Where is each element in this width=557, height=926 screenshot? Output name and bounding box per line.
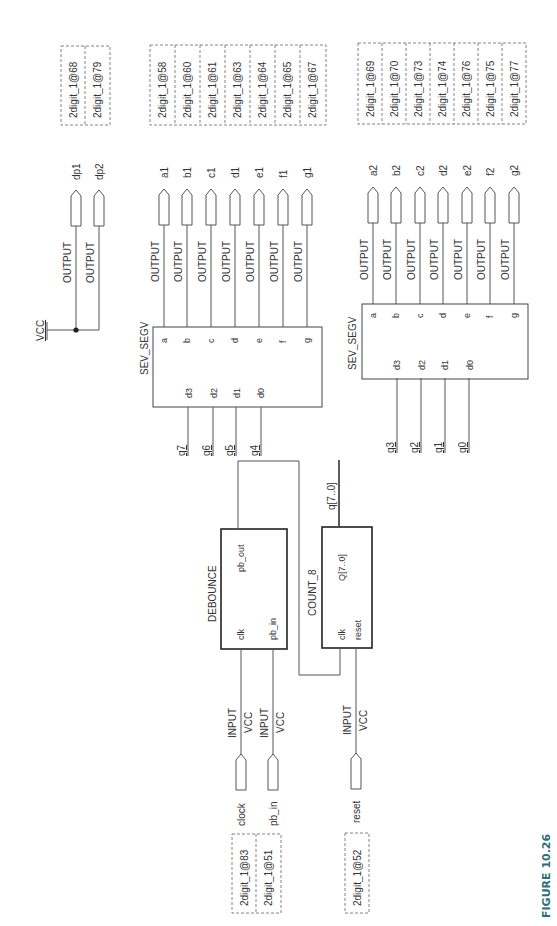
output-pin-c1: c1 OUTPUT [197, 167, 217, 327]
svg-text:OUTPUT: OUTPUT [173, 241, 184, 282]
pin-assignment-reset: 2digit_1@52 [352, 849, 363, 906]
output-pin-c2: c2 OUTPUT [406, 165, 426, 304]
output-pin-dp1-type: OUTPUT [62, 242, 73, 283]
pin-assignment-a2: 2digit_1@69 [365, 60, 376, 117]
output-pin-g1: g1 OUTPUT [293, 166, 313, 327]
output-pin-b2: b2 OUTPUT [382, 164, 402, 304]
svg-text:OUTPUT: OUTPUT [293, 241, 304, 282]
output-pin-d1: d1 OUTPUT [221, 166, 241, 327]
pin-assignment-group-digit1: 2digit_1@58 2digit_1@60 2digit_1@61 2dig… [150, 45, 326, 125]
svg-text:b2: b2 [391, 164, 402, 176]
svg-text:INPUT: INPUT [342, 705, 353, 735]
svg-text:f1: f1 [278, 169, 289, 178]
svg-text:clk: clk [236, 629, 246, 640]
svg-text:d1: d1 [440, 360, 450, 370]
pin-assignment-e2: 2digit_1@76 [461, 60, 472, 117]
svg-text:d2: d2 [438, 164, 449, 176]
svg-text:b: b [391, 313, 401, 318]
input-pin-pb-in[interactable]: INPUT VCC pb_in [259, 649, 286, 826]
svg-text:g: g [509, 313, 519, 318]
svg-text:d2: d2 [209, 388, 219, 398]
pin-assignment-f1: 2digit_1@65 [282, 61, 293, 118]
svg-text:OUTPUT: OUTPUT [269, 241, 280, 282]
svg-text:OUTPUT: OUTPUT [453, 239, 464, 280]
pin-assignment-e1: 2digit_1@64 [257, 61, 268, 118]
input-name: reset [351, 801, 362, 823]
svg-text:a2: a2 [368, 164, 379, 176]
net-q2: q2 [409, 441, 420, 453]
svg-text:OUTPUT: OUTPUT [150, 241, 161, 282]
svg-text:OUTPUT: OUTPUT [476, 239, 487, 280]
input-name: pb_in [268, 802, 279, 826]
pin-assignment-b1: 2digit_1@60 [182, 61, 193, 118]
pin-assignment-dp1: 2digit_1@68 [68, 61, 79, 118]
svg-text:f2: f2 [485, 167, 496, 176]
input-pin-reset[interactable]: INPUT VCC reset [342, 648, 369, 823]
svg-text:c: c [206, 338, 216, 343]
svg-text:d0: d0 [465, 360, 475, 370]
input-name: clock [236, 802, 247, 826]
svg-text:g1: g1 [302, 166, 313, 178]
vcc-label: VCC [35, 320, 46, 341]
svg-text:clk: clk [337, 629, 347, 640]
output-pins-digit1: a1 OUTPUT b1 OUTPUT c1 OUTPUT d1 OUTPUT … [150, 166, 313, 327]
svg-text:INPUT: INPUT [259, 708, 270, 738]
svg-text:OUTPUT: OUTPUT [429, 239, 440, 280]
svg-text:OUTPUT: OUTPUT [359, 239, 370, 280]
output-pin-dp2-type: OUTPUT [85, 242, 96, 283]
net-q3: q3 [385, 441, 396, 453]
pin-assignment-clock: 2digit_1@83 [239, 849, 250, 906]
svg-text:a1: a1 [159, 166, 170, 178]
svg-text:OUTPUT: OUTPUT [245, 241, 256, 282]
svg-text:OUTPUT: OUTPUT [406, 239, 417, 280]
svg-text:g: g [302, 338, 312, 343]
svg-text:e1: e1 [254, 166, 265, 178]
svg-text:pb_in: pb_in [268, 618, 278, 640]
debounce-block[interactable]: DEBOUNCE clk pb_in pb_out [207, 529, 287, 649]
output-pins-digit2: a2 OUTPUT b2 OUTPUT c2 OUTPUT d2 OUTPUT … [359, 164, 520, 304]
sev-segv-block-2[interactable]: SEV_SEGV a b c d e f g d3 d2 d1 d0 q3 q2… [347, 304, 528, 453]
svg-text:d3: d3 [392, 360, 402, 370]
svg-text:b1: b1 [182, 166, 193, 178]
svg-text:d1: d1 [230, 166, 241, 178]
svg-text:pb_out: pb_out [236, 544, 246, 572]
pin-assignment-f2: 2digit_1@75 [485, 60, 496, 117]
svg-text:OUTPUT: OUTPUT [382, 239, 393, 280]
pin-assignment-b2: 2digit_1@70 [389, 60, 400, 117]
output-pin-dp1-icon [71, 190, 81, 226]
output-pins-dp: dp1 OUTPUT dp2 OUTPUT VCC [35, 163, 105, 341]
svg-text:e2: e2 [462, 164, 473, 176]
pin-assignment-d2: 2digit_1@74 [437, 60, 448, 117]
output-pin-dp2-name: dp2 [94, 163, 105, 180]
svg-text:OUTPUT: OUTPUT [197, 241, 208, 282]
svg-text:d0: d0 [256, 388, 266, 398]
output-pin-f1: f1 OUTPUT [269, 169, 289, 327]
svg-text:a: a [368, 313, 378, 318]
output-pin-dp1-name: dp1 [71, 163, 82, 180]
net-q7: q7 [176, 444, 187, 456]
pin-assignment-c2: 2digit_1@73 [413, 60, 424, 117]
svg-text:d: d [438, 313, 448, 318]
output-pin-b1: b1 OUTPUT [173, 166, 193, 327]
output-pin-d2: d2 OUTPUT [429, 164, 449, 304]
svg-text:reset: reset [353, 619, 363, 640]
svg-text:g2: g2 [509, 164, 520, 176]
pin-assignment-g1: 2digit_1@67 [307, 61, 318, 118]
svg-text:c1: c1 [206, 167, 217, 178]
block-name: COUNT_8 [307, 569, 318, 616]
sev-segv-block-1[interactable]: SEV_SEGV a b c d e f g d3 d2 d1 d0 q7 q6… [139, 321, 322, 456]
count8-block[interactable]: COUNT_8 clk reset Q[7..0] q[7..0] [307, 460, 372, 648]
svg-text:VCC: VCC [358, 710, 369, 731]
pin-assignment-d1: 2digit_1@63 [232, 61, 243, 118]
output-pin-e2: e2 OUTPUT [453, 164, 473, 304]
svg-text:d1: d1 [232, 388, 242, 398]
svg-text:a: a [159, 338, 169, 343]
svg-text:e: e [254, 338, 264, 343]
input-pin-clock[interactable]: INPUT VCC clock [227, 649, 254, 826]
figure-label: FIGURE 10.26 [540, 833, 553, 918]
net-q1: q1 [433, 441, 444, 453]
svg-text:VCC: VCC [275, 712, 286, 733]
net-q-bus: q[7..0] [326, 482, 337, 510]
pin-assignment-g2: 2digit_1@77 [509, 60, 520, 117]
svg-text:c: c [415, 313, 425, 318]
